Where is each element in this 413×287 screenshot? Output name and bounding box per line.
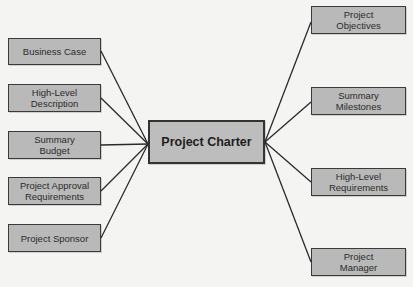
node-label: High-Level Description <box>31 87 79 109</box>
node-business-case: Business Case <box>8 38 101 65</box>
node-label: Project Charter <box>161 137 251 148</box>
node-label: Project Manager <box>340 251 378 273</box>
node-label: Summary Budget <box>34 134 75 156</box>
node-label: Summary Milestones <box>336 90 381 112</box>
node-high-level-description: High-Level Description <box>8 84 101 112</box>
node-label: Project Approval Requirements <box>20 180 89 202</box>
node-project-charter: Project Charter <box>148 120 265 164</box>
node-project-objectives: Project Objectives <box>311 6 406 34</box>
node-label: High-Level Requirements <box>329 171 388 193</box>
node-high-level-requirements: High-Level Requirements <box>311 168 406 196</box>
node-project-approval-requirements: Project Approval Requirements <box>8 177 101 205</box>
node-summary-milestones: Summary Milestones <box>311 87 406 115</box>
node-label: Project Sponsor <box>21 233 89 244</box>
node-label: Project Objectives <box>336 9 380 31</box>
node-summary-budget: Summary Budget <box>8 131 101 159</box>
node-project-sponsor: Project Sponsor <box>8 224 101 252</box>
node-project-manager: Project Manager <box>311 248 406 276</box>
node-label: Business Case <box>23 46 86 57</box>
